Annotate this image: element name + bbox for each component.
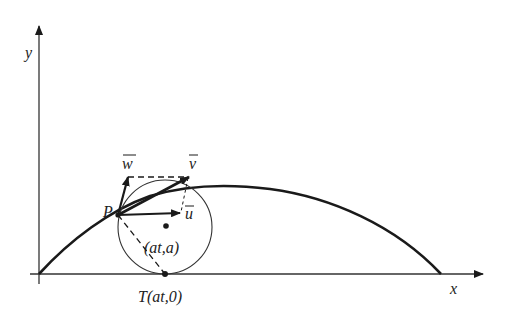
tangent-point-label: T(at,0) [138, 288, 182, 306]
vector-u-arrow [118, 213, 180, 215]
cycloid-curve [39, 186, 441, 274]
svg-text:u: u [185, 205, 193, 222]
x-axis-label: x [449, 280, 457, 297]
vector-v-label: v [189, 155, 198, 172]
center-point [163, 223, 169, 229]
y-axis-label: y [23, 44, 33, 62]
vector-w-label: w [122, 155, 136, 172]
vector-v-arrow [118, 177, 189, 215]
point-P [115, 212, 120, 217]
vector-u-label: u [185, 205, 194, 222]
cycloid-diagram: y x (at,a) T(at,0) P w v u [0, 0, 511, 320]
svg-text:v: v [189, 155, 197, 172]
point-P-label: P [102, 203, 113, 220]
svg-text:w: w [122, 155, 133, 172]
